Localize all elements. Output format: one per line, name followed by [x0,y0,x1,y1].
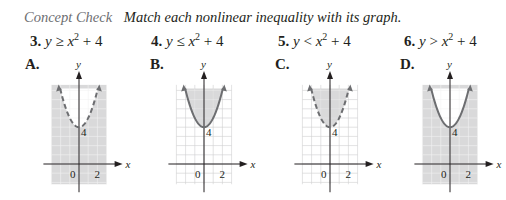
x-tick-2: 2 [345,168,351,180]
constant-term: + 4 [204,33,224,49]
vertex-label: 4 [206,126,212,138]
lhs: y [45,33,52,49]
y-axis-label: y [446,58,452,70]
exponent: 2 [448,31,453,42]
operator: > [429,33,437,49]
constant-term: + 4 [83,33,103,49]
problem-number: 5. [278,33,289,49]
instruction-text: Match each nonlinear inequality with its… [124,9,401,25]
x-tick-0: 0 [321,168,327,180]
graph-a: xy024 [39,58,129,198]
constant-term: + 4 [457,33,477,49]
exponent: 2 [74,31,79,42]
problem-3: 3. y ≥ x2 + 4 [30,31,103,50]
x-axis-label: x [250,158,256,170]
constant-term: + 4 [331,33,351,49]
graph-d: xy024 [410,58,500,198]
y-axis-arrow-icon [447,71,453,79]
x-axis-label: x [376,158,382,170]
y-axis-arrow-icon [327,71,333,79]
concept-check-label: Concept Check [24,9,112,25]
operator: ≥ [55,33,63,49]
lhs: y [293,33,300,49]
graph-label-a: A. [25,56,40,73]
x-tick-2: 2 [94,168,100,180]
lhs: y [166,33,173,49]
problem-4: 4. y ≤ x2 + 4 [151,31,224,50]
vertex-label: 4 [81,126,87,138]
graph-b: xy024 [164,58,254,198]
x-tick-0: 0 [195,168,201,180]
problem-number: 3. [30,33,41,49]
problem-6: 6. y > x2 + 4 [404,31,477,50]
graph-label-b: B. [150,56,164,73]
operator: < [303,33,311,49]
y-axis-arrow-icon [201,71,207,79]
x-tick-2: 2 [219,168,225,180]
graph-label-c: C. [275,56,290,73]
y-axis-label: y [200,58,206,70]
concept-check-header: Concept Check Match each nonlinear inequ… [24,9,401,26]
y-axis-label: y [75,58,81,70]
y-axis-label: y [326,58,332,70]
problem-number: 4. [151,33,162,49]
operator: ≤ [176,33,184,49]
graph-c: xy024 [290,58,380,198]
x-axis-label: x [125,158,131,170]
vertex-label: 4 [452,126,458,138]
x-axis-arrow-icon [366,161,374,167]
y-axis-arrow-icon [76,71,82,79]
x-axis-arrow-icon [240,161,248,167]
x-tick-0: 0 [70,168,76,180]
x-axis-label: x [496,158,502,170]
problem-number: 6. [404,33,415,49]
x-axis-arrow-icon [486,161,494,167]
problem-5: 5. y < x2 + 4 [278,31,351,50]
exponent: 2 [195,31,200,42]
x-axis-arrow-icon [115,161,123,167]
x-tick-0: 0 [441,168,447,180]
lhs: y [419,33,426,49]
x-tick-2: 2 [465,168,471,180]
exponent: 2 [322,31,327,42]
vertex-label: 4 [332,126,338,138]
